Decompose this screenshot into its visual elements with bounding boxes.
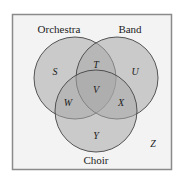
region-u: U xyxy=(131,66,139,77)
region-z: Z xyxy=(150,138,156,149)
venn-diagram: Orchestra Band Choir S T U V W X Y Z xyxy=(0,0,185,178)
band-label: Band xyxy=(118,23,142,35)
orchestra-label: Orchestra xyxy=(38,23,81,35)
region-s: S xyxy=(53,66,58,77)
choir-label: Choir xyxy=(83,154,108,166)
region-x: X xyxy=(117,97,125,108)
